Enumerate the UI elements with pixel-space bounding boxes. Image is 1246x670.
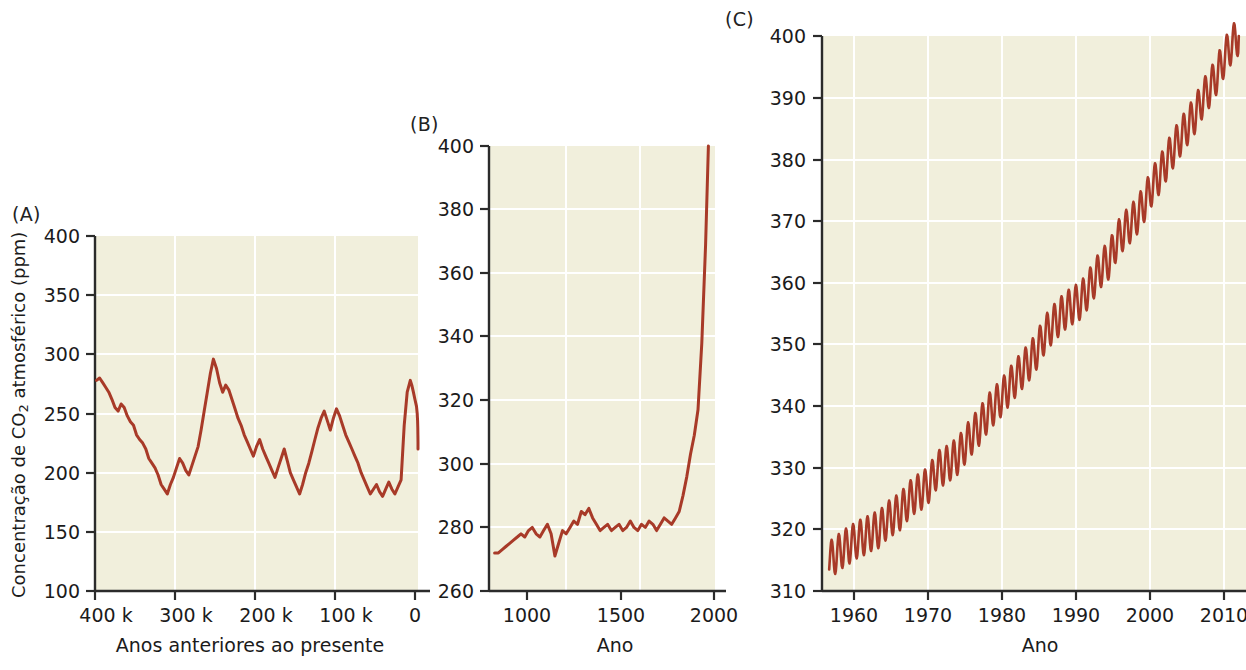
panel-c: (C) xyxy=(0,0,1246,670)
panel-c-ytick-330: 330 xyxy=(770,457,806,479)
panel-c-xaxis-title: Ano xyxy=(1022,634,1059,656)
panel-c-data-line xyxy=(829,23,1239,574)
panel-c-svg: 400 390 380 370 360 350 340 330 320 310 … xyxy=(0,0,1246,670)
panel-c-ytick-380: 380 xyxy=(770,149,806,171)
panel-c-ytick-370: 370 xyxy=(770,210,806,232)
panel-c-ytick-labels: 400 390 380 370 360 350 340 330 320 310 xyxy=(770,25,806,602)
panel-c-axes xyxy=(813,36,1246,600)
panel-c-xtick-1980: 1980 xyxy=(978,604,1026,626)
panel-c-xtick-2010: 2010 xyxy=(1200,604,1246,626)
panel-c-ytick-390: 390 xyxy=(770,87,806,109)
panel-c-ytick-350: 350 xyxy=(770,333,806,355)
panel-c-ytick-360: 360 xyxy=(770,272,806,294)
panel-c-xtick-labels: 1960 1970 1980 1990 2000 2010 xyxy=(830,604,1246,626)
panel-c-xtick-1970: 1970 xyxy=(904,604,952,626)
panel-c-ytick-320: 320 xyxy=(770,518,806,540)
panel-c-xtick-2000: 2000 xyxy=(1126,604,1174,626)
panel-c-ytick-310: 310 xyxy=(770,580,806,602)
panel-c-xtick-1960: 1960 xyxy=(830,604,878,626)
panel-c-ytick-400: 400 xyxy=(770,25,806,47)
panel-c-ytick-340: 340 xyxy=(770,395,806,417)
panel-c-xtick-1990: 1990 xyxy=(1052,604,1100,626)
